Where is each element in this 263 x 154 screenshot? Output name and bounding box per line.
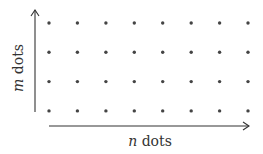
grid-dot [76, 109, 79, 112]
grid-dot [133, 109, 136, 112]
grid-dot [104, 51, 107, 54]
grid-dot [133, 21, 136, 24]
grid-dot [246, 21, 249, 24]
grid-dot [190, 80, 193, 83]
y-axis-label: m dots [10, 44, 26, 92]
vertical-arrow [31, 10, 39, 112]
grid-dot [161, 109, 164, 112]
grid-dot [246, 109, 249, 112]
grid-dot [246, 51, 249, 54]
dot-grid [47, 21, 249, 112]
grid-dot [133, 80, 136, 83]
grid-dot [161, 80, 164, 83]
grid-dot [104, 109, 107, 112]
grid-dot [104, 21, 107, 24]
grid-dot [47, 51, 50, 54]
dot-grid-diagram: n dots m dots [0, 0, 263, 154]
grid-dot [218, 80, 221, 83]
grid-dot [218, 21, 221, 24]
grid-dot [76, 80, 79, 83]
grid-dot [76, 51, 79, 54]
grid-dot [47, 80, 50, 83]
grid-dot [104, 80, 107, 83]
grid-dot [161, 21, 164, 24]
grid-dot [161, 51, 164, 54]
grid-dot [246, 80, 249, 83]
horizontal-arrow [49, 122, 249, 130]
grid-dot [76, 21, 79, 24]
grid-dot [190, 21, 193, 24]
x-axis-label: n dots [128, 133, 172, 149]
grid-dot [133, 51, 136, 54]
grid-dot [47, 109, 50, 112]
grid-dot [190, 51, 193, 54]
grid-dot [218, 109, 221, 112]
grid-dot [218, 51, 221, 54]
grid-dot [47, 21, 50, 24]
grid-dot [190, 109, 193, 112]
